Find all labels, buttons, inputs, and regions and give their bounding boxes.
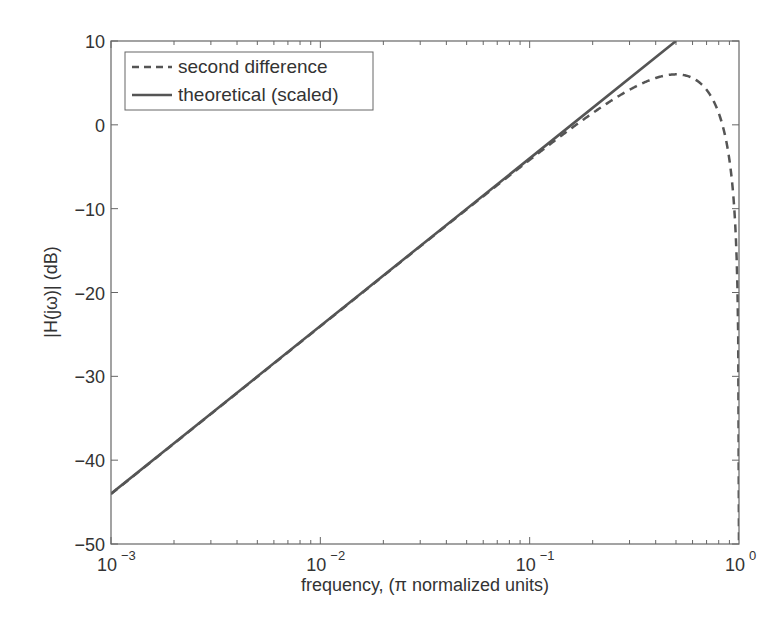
x-tick-labels: 10−310−210−1100: [97, 548, 756, 575]
y-tick-label: −20: [74, 284, 105, 304]
y-tick-label: −10: [74, 200, 105, 220]
x-tick-label: 10: [516, 555, 536, 575]
chart: 100−10−20−30−40−50 10−310−210−1100 frequ…: [0, 0, 783, 638]
x-tick-label: 10: [725, 555, 745, 575]
x-tick-label: 10: [97, 555, 117, 575]
y-tick-label: −40: [74, 451, 105, 471]
x-tick-exponent: −1: [540, 548, 555, 563]
series-group: [111, 41, 739, 552]
legend-label-theoretical: theoretical (scaled): [178, 84, 339, 105]
y-tick-label: 10: [85, 32, 105, 52]
x-tick-exponent: −2: [330, 548, 345, 563]
plot-frame: [111, 41, 739, 544]
x-tick-exponent: 0: [749, 548, 756, 563]
y-tick-label: −30: [74, 367, 105, 387]
x-axis-label: frequency, (π normalized units): [301, 575, 549, 595]
x-tick-exponent: −3: [121, 548, 136, 563]
x-tick-label: 10: [306, 555, 326, 575]
y-axis-label: |H(jω)| (dB): [41, 246, 61, 337]
legend-label-second-difference: second difference: [178, 56, 328, 77]
y-tick-label: −50: [74, 535, 105, 555]
y-tick-labels: 100−10−20−30−40−50: [74, 32, 105, 555]
legend: second difference theoretical (scaled): [125, 52, 373, 110]
axis-ticks: [111, 41, 739, 544]
series-second-difference: [111, 74, 739, 552]
y-tick-label: 0: [95, 116, 105, 136]
